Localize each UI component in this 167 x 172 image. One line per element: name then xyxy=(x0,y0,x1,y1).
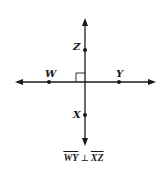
label-w: W xyxy=(45,69,56,79)
point-w xyxy=(47,80,51,84)
right-angle-marker-icon xyxy=(76,73,85,82)
perpendicular-caption: WY⊥XZ xyxy=(0,152,167,163)
arrowhead-down-icon xyxy=(82,138,88,146)
perpendicular-lines-figure xyxy=(0,0,167,172)
label-y: Y xyxy=(116,69,123,79)
segment-wy: WY xyxy=(63,152,78,163)
label-z: Z xyxy=(73,42,80,52)
perpendicular-symbol-icon: ⊥ xyxy=(80,153,88,163)
point-y xyxy=(117,80,121,84)
point-z xyxy=(83,48,87,52)
point-x xyxy=(83,113,87,117)
arrowhead-up-icon xyxy=(82,18,88,26)
label-x: X xyxy=(73,110,81,120)
segment-xz: XZ xyxy=(91,152,104,163)
arrowhead-left-icon xyxy=(15,79,23,85)
diagram-canvas: Z X W Y WY⊥XZ xyxy=(0,0,167,172)
arrowhead-right-icon xyxy=(148,79,156,85)
